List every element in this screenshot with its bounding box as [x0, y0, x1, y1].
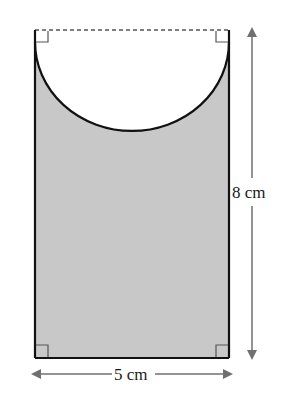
right-angle-marker-top-right	[216, 31, 228, 42]
height-label: 8 cm	[232, 183, 266, 202]
right-angle-marker-top-left	[36, 31, 48, 42]
shaded-region	[35, 42, 229, 358]
diagram-canvas: 8 cm 5 cm	[0, 0, 296, 393]
width-label: 5 cm	[114, 365, 148, 384]
